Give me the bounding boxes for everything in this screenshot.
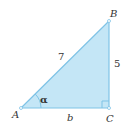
- vertex-a-label: A: [11, 109, 19, 120]
- vertex-b-dot: [108, 20, 111, 23]
- vertex-c-dot: [108, 107, 111, 110]
- side-ac-label: b: [67, 112, 73, 123]
- triangle-abc: [21, 21, 109, 108]
- vertex-b-label: B: [109, 8, 117, 19]
- vertex-a-dot: [20, 107, 23, 110]
- side-ab-length: 7: [58, 51, 64, 62]
- triangle-diagram: A B C 7 5 b α: [0, 0, 131, 135]
- angle-alpha-label: α: [40, 94, 48, 105]
- vertex-c-label: C: [106, 113, 114, 124]
- side-bc-length: 5: [114, 58, 120, 69]
